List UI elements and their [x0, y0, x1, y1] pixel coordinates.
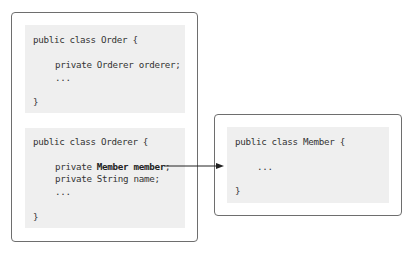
arrow-head-icon: [216, 163, 224, 169]
reference-arrow: [0, 0, 413, 254]
